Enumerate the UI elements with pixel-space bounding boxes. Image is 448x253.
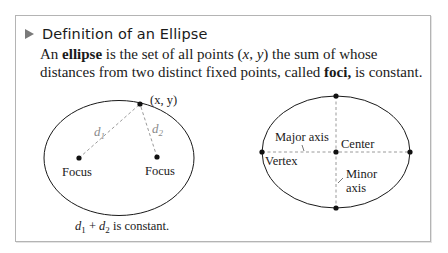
focus-dot-right bbox=[154, 154, 159, 159]
d2-label: d2 bbox=[152, 121, 164, 138]
sum-constant-caption: d1 + d2 is constant. bbox=[75, 219, 169, 235]
right-ellipse-figure: Major axis Center Vertex Minor axis bbox=[259, 93, 412, 210]
bottom-covertex-dot bbox=[333, 205, 338, 210]
minor-axis-label-line2: axis bbox=[346, 181, 366, 195]
center-dot bbox=[333, 149, 338, 154]
focus-label-left: Focus bbox=[62, 165, 92, 179]
vertex-label: Vertex bbox=[265, 154, 298, 168]
focus-dot-left bbox=[76, 155, 81, 160]
minor-axis-label-line1: Minor bbox=[346, 167, 378, 181]
ellipse-outline bbox=[44, 101, 194, 216]
left-vertex-dot bbox=[259, 149, 264, 154]
major-axis-pointer bbox=[302, 145, 304, 151]
top-covertex-dot bbox=[333, 93, 338, 98]
d1-label: d1 bbox=[94, 124, 105, 141]
minor-axis-pointer bbox=[338, 178, 343, 183]
focus-label-right: Focus bbox=[145, 164, 175, 178]
point-xy-dot bbox=[137, 101, 142, 106]
major-axis-label: Major axis bbox=[275, 130, 329, 144]
distance-d1-line bbox=[79, 104, 140, 158]
ellipse-figures: (x, y) d1 d2 Focus Focus d1 + d2 is cons… bbox=[0, 0, 448, 253]
center-label: Center bbox=[341, 137, 375, 151]
right-vertex-dot bbox=[407, 149, 412, 154]
left-ellipse-figure: (x, y) d1 d2 Focus Focus d1 + d2 is cons… bbox=[44, 93, 194, 235]
point-xy-label: (x, y) bbox=[150, 93, 177, 107]
